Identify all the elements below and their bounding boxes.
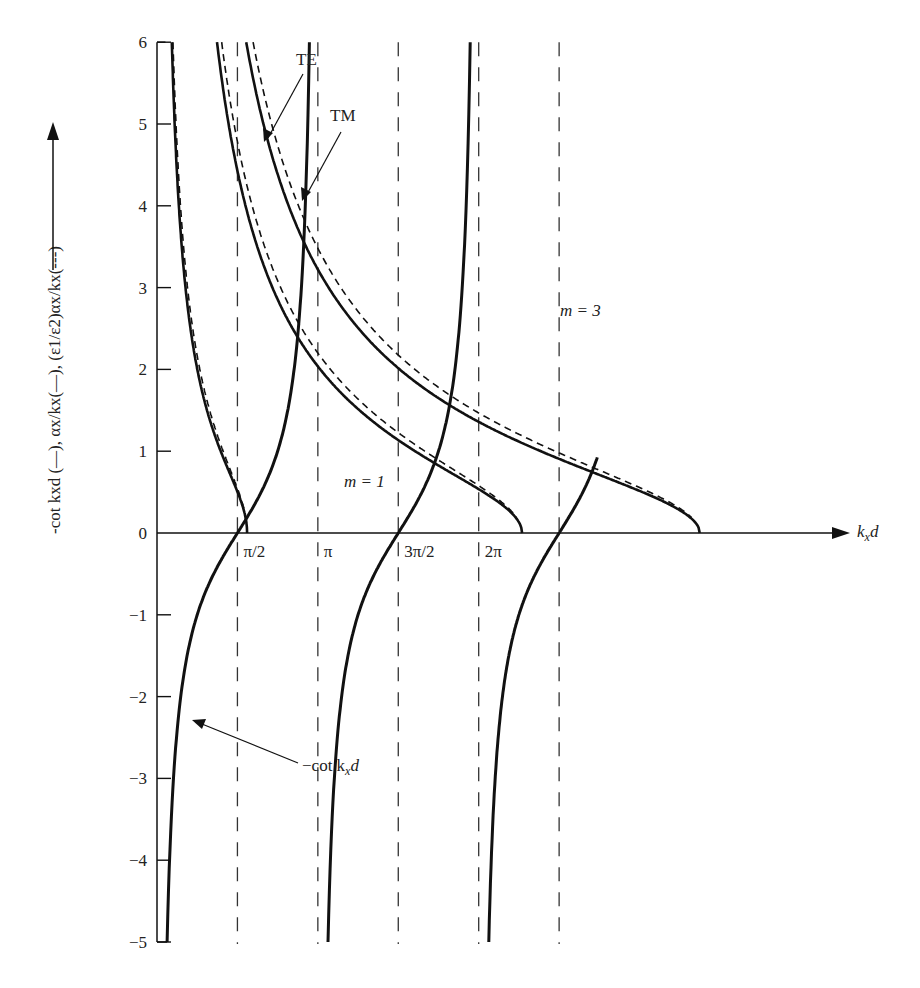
y-tick-label: −3 [129,769,147,788]
m1-label: m = 1 [344,472,385,491]
tm-curve [222,42,517,517]
y-tick-label: 3 [139,279,148,298]
y-axis-title: -cot kxd (—), αx/kx(—), (ε1/ε2)αx/kx(---… [45,246,64,534]
cot-label: −cot kxd [302,756,359,778]
te-arrow [268,74,303,138]
tm-label: TM [330,106,356,125]
m3-label: m = 3 [560,301,601,320]
tm-curve [253,42,691,517]
cot-arrow [197,722,298,763]
x-tick-label: π/2 [243,542,265,561]
tm-arrow [306,132,341,196]
dashed-asymptotes [237,42,559,944]
te-label: TE [296,50,317,69]
y-ticks: 6543210−1−2−3−4−5 [129,33,171,952]
y-tick-label: 6 [139,33,148,52]
te-curve [172,42,247,533]
y-tick-label: −4 [129,851,148,870]
x-tick-label: π [324,542,333,561]
y-tick-label: 2 [139,360,148,379]
x-tick-label: 3π/2 [404,542,434,561]
neg-cot-curve [328,42,470,942]
x-tick-label: 2π [485,542,503,561]
x-axis-arrowhead [832,527,850,539]
x-axis-title: kxd [857,522,879,544]
y-tick-label: 4 [139,197,148,216]
y-tick-label: 5 [139,115,148,134]
cot-arrowhead [192,719,206,729]
y-tick-label: 0 [139,524,148,543]
curves [157,42,700,942]
y-axis-title-text: -cot kxd (—), αx/kx(—), (ε1/ε2)αx/kx(---… [45,246,64,534]
y-tick-label: −1 [129,606,147,625]
neg-cot-curve [489,457,598,942]
te-curve [246,42,700,533]
y-tick-label: −2 [129,688,147,707]
dispersion-chart: 6543210−1−2−3−4−5 π/2π3π/22π -cot kxd (—… [0,0,920,988]
y-tick-label: 1 [139,442,148,461]
x-ticks: π/2π3π/22π [243,542,502,561]
y-tick-label: −5 [129,933,147,952]
